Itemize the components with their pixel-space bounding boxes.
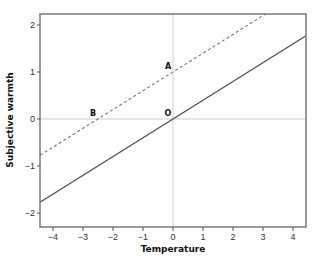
x-tick-label: 0	[170, 232, 175, 242]
y-tick-label: 2	[30, 20, 35, 30]
x-tick-label: −2	[108, 232, 118, 242]
y-tick-label: −2	[25, 208, 35, 218]
x-tick-label: −3	[78, 232, 88, 242]
reference-lines	[40, 14, 306, 227]
shifted-line	[40, 14, 266, 155]
y-axis-title: Subjective warmth	[5, 72, 15, 167]
x-tick-label: 2	[230, 232, 235, 242]
x-axis-title: Temperature	[141, 244, 206, 254]
point-label-a: A	[165, 62, 172, 71]
x-tick-label: 4	[290, 232, 295, 242]
y-tick-label: 1	[30, 67, 35, 77]
line-chart: −4−3−2−101234 −2−1012 ABO Temperature Su…	[0, 0, 320, 263]
x-tick-label: −4	[48, 232, 58, 242]
x-axis-ticks: −4−3−2−101234	[48, 227, 296, 242]
x-tick-label: 3	[260, 232, 265, 242]
y-tick-label: −1	[25, 161, 35, 171]
y-axis-ticks: −2−1012	[25, 20, 40, 218]
x-tick-label: 1	[200, 232, 205, 242]
x-tick-label: −1	[138, 232, 148, 242]
point-label-o: O	[165, 109, 172, 118]
point-label-b: B	[90, 109, 96, 118]
y-tick-label: 0	[30, 114, 35, 124]
point-annotations: ABO	[90, 62, 172, 118]
